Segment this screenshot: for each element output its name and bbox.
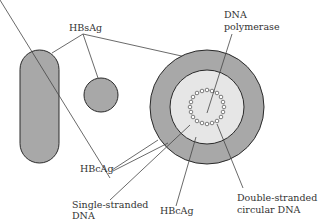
label-dna-polymerase-2: polymerase xyxy=(224,21,280,32)
label-dna-polymerase-1: DNA xyxy=(224,9,247,20)
spherical-particle xyxy=(84,78,118,112)
label-double-stranded-2: circular DNA xyxy=(237,204,301,215)
label-hbcag-left: HBcAg xyxy=(80,163,114,174)
label-hbsag: HBsAg xyxy=(69,22,102,33)
label-single-stranded-2: DNA xyxy=(72,210,95,219)
label-hbcag-bottom: HBcAg xyxy=(160,205,194,216)
label-double-stranded-1: Double-stranded xyxy=(237,192,317,203)
label-single-stranded-1: Single-stranded xyxy=(72,199,148,210)
filamentous-particle xyxy=(20,50,59,163)
hbv-particles-diagram: HBsAg DNA polymerase HBcAg Single-strand… xyxy=(0,0,324,219)
